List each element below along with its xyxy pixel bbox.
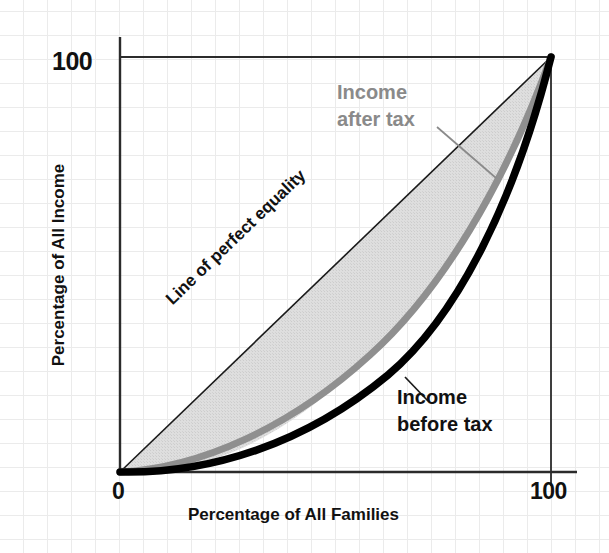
annotation-income-before-tax-line1: Income: [397, 386, 467, 409]
x-axis-tick-0: 0: [112, 478, 125, 505]
y-axis-title: Percentage of All Income: [49, 145, 69, 385]
x-axis-tick-100: 100: [530, 478, 567, 505]
lorenz-curve-chart: [0, 0, 609, 553]
x-axis-title: Percentage of All Families: [188, 505, 399, 525]
chart-canvas: 100 0 100 Percentage of All Income Perce…: [0, 0, 609, 553]
annotation-income-before-tax-line2: before tax: [397, 413, 493, 436]
annotation-income-after-tax-line2: after tax: [337, 108, 415, 131]
y-axis-tick-100: 100: [52, 47, 92, 76]
annotation-income-after-tax-line1: Income: [337, 81, 407, 104]
